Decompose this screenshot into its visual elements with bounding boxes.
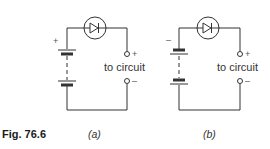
caption-b: (b) [203, 128, 216, 140]
battery-sign-a: + [53, 36, 58, 46]
terminal-icon [125, 52, 130, 57]
wire-top-left-a [67, 28, 84, 49]
wire-bottom-a [67, 84, 127, 110]
diode-icon [84, 17, 106, 39]
figure-label: Fig. 76.6 [2, 128, 46, 140]
terminal-bottom-sign-a: – [132, 76, 137, 86]
wire-bottom-b [179, 84, 240, 110]
circuit-diagram: + + to circuit – – + to circuit – Fig. 7… [0, 0, 270, 149]
terminal-label-a: to circuit [104, 61, 145, 73]
caption-a: (a) [88, 128, 101, 140]
terminal-icon [238, 52, 243, 57]
wire-top-right-b [219, 28, 240, 51]
battery-sign-b: – [166, 35, 171, 45]
terminal-top-sign-a: + [132, 49, 137, 59]
terminal-bottom-sign-b: – [245, 76, 250, 86]
battery-icon [170, 50, 188, 84]
battery-icon [58, 50, 76, 88]
terminal-label-b: to circuit [217, 61, 258, 73]
terminal-top-sign-b: + [245, 49, 250, 59]
diode-icon [197, 17, 219, 39]
terminal-icon [125, 79, 130, 84]
wire-top-left-b [179, 28, 197, 49]
terminal-icon [238, 79, 243, 84]
wire-top-right-a [106, 28, 127, 51]
